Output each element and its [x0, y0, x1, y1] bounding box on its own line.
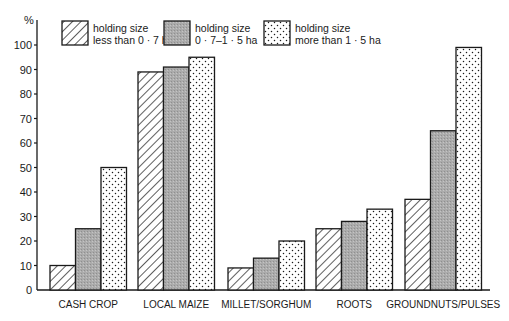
- bar-grey: [254, 258, 280, 290]
- bar-chart: %0102030405060708090100 CASH CROPLOCAL M…: [0, 0, 509, 321]
- y-tick-label: 50: [20, 162, 32, 174]
- y-axis-label: %: [24, 14, 34, 26]
- legend: holding sizeless than 0 · 7 haholding si…: [62, 21, 381, 46]
- y-tick-label: 80: [20, 88, 32, 100]
- y-tick-label: 100: [14, 39, 32, 51]
- legend-swatch-dotted: [264, 21, 290, 45]
- bar-hatched: [316, 229, 342, 290]
- category-labels: CASH CROPLOCAL MAIZEMILLET/SORGHUMROOTSG…: [59, 299, 501, 310]
- category-label: LOCAL MAIZE: [143, 299, 209, 310]
- y-tick-label: 60: [20, 137, 32, 149]
- category-label: CASH CROP: [59, 299, 119, 310]
- bar-dotted: [367, 209, 393, 290]
- bar-hatched: [405, 199, 431, 290]
- bar-hatched: [50, 266, 76, 291]
- y-tick-label: 90: [20, 64, 32, 76]
- legend-swatch-grey: [164, 21, 190, 45]
- bars: [50, 47, 482, 290]
- bar-grey: [76, 229, 102, 290]
- legend-label: less than 0 · 7 ha: [93, 34, 174, 46]
- legend-label: holding size: [295, 22, 351, 34]
- legend-label: holding size: [93, 22, 149, 34]
- category-label: ROOTS: [336, 299, 372, 310]
- bar-dotted: [456, 47, 482, 290]
- y-tick-label: 0: [26, 284, 32, 296]
- category-label: MILLET/SORGHUM: [221, 299, 311, 310]
- legend-label: holding size: [195, 22, 251, 34]
- bar-hatched: [228, 268, 254, 290]
- bar-dotted: [279, 241, 305, 290]
- y-tick-label: 20: [20, 235, 32, 247]
- y-tick-label: 70: [20, 113, 32, 125]
- y-tick-label: 10: [20, 260, 32, 272]
- bar-grey: [164, 67, 190, 290]
- bar-grey: [342, 221, 368, 290]
- legend-swatch-hatched: [62, 21, 88, 45]
- category-label: GROUNDNUTS/PULSES: [386, 299, 500, 310]
- legend-label: more than 1 · 5 ha: [295, 34, 381, 46]
- y-tick-label: 40: [20, 186, 32, 198]
- bar-grey: [431, 131, 457, 290]
- bar-hatched: [138, 72, 164, 290]
- legend-label: 0 · 7–1 · 5 ha: [195, 34, 258, 46]
- y-tick-label: 30: [20, 211, 32, 223]
- bar-dotted: [189, 57, 215, 290]
- bar-dotted: [101, 168, 127, 291]
